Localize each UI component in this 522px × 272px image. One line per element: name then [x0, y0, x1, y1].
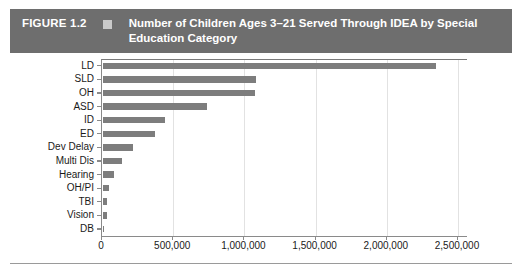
bar-track [101, 127, 512, 141]
category-label-oh: OH [10, 88, 97, 98]
figure-number-label: FIGURE 1.2 [22, 16, 87, 29]
bar-id [103, 117, 165, 124]
bottom-divider [10, 263, 512, 264]
x-axis-line [101, 236, 467, 237]
category-label-ohpi: OH/PI [10, 183, 97, 193]
category-label-id: ID [10, 115, 97, 125]
chart-container: LD SLD OH ASD [10, 56, 512, 256]
category-label-sld: SLD [10, 74, 97, 84]
bar-track [101, 141, 512, 155]
bar-row: OH [10, 86, 512, 100]
bar-ed [103, 131, 155, 138]
bar-tbi [103, 198, 107, 205]
category-label-tbi: TBI [10, 197, 97, 207]
bar-row: SLD [10, 73, 512, 87]
category-label-asd: ASD [10, 102, 97, 112]
bar-row: TBI [10, 195, 512, 209]
bar-ohpi [103, 185, 109, 192]
x-tick-label-2000000: 2,000,000 [364, 240, 409, 251]
square-bullet-icon [103, 20, 112, 29]
bar-rows: LD SLD OH ASD [10, 59, 512, 236]
bar-row: Vision [10, 209, 512, 223]
bar-hearing [103, 171, 114, 178]
bar-track [101, 154, 512, 168]
bar-ld [103, 63, 436, 70]
bar-track [101, 181, 512, 195]
figure-header-bar: FIGURE 1.2 Number of Children Ages 3–21 … [10, 9, 512, 53]
bar-track [101, 59, 512, 73]
bar-row: LD [10, 59, 512, 73]
bar-oh [103, 90, 255, 97]
x-tick-label-1500000: 1,500,000 [292, 240, 337, 251]
bar-track [101, 86, 512, 100]
category-label-vision: Vision [10, 210, 97, 220]
bar-track [101, 209, 512, 223]
category-label-ed: ED [10, 129, 97, 139]
category-label-ld: LD [10, 61, 97, 71]
bar-row: ED [10, 127, 512, 141]
bar-row: OH/PI [10, 181, 512, 195]
x-tick-label-1000000: 1,000,000 [221, 240, 266, 251]
x-tick-label-2500000: 2,500,000 [435, 240, 480, 251]
bar-track [101, 195, 512, 209]
figure-title: Number of Children Ages 3–21 Served Thro… [129, 16, 489, 46]
bar-row: ASD [10, 100, 512, 114]
category-label-multi-dis: Multi Dis [10, 156, 97, 166]
bar-row: DB [10, 222, 512, 236]
bar-track [101, 100, 512, 114]
bar-vision [103, 212, 107, 219]
bar-row: Multi Dis [10, 154, 512, 168]
bar-track [101, 222, 512, 236]
bar-multi-dis [103, 158, 122, 165]
bar-asd [103, 103, 207, 110]
category-label-dev-delay: Dev Delay [10, 142, 97, 152]
x-axis-tick-labels: 0 500,000 1,000,000 1,500,000 2,000,000 … [10, 240, 512, 256]
x-tick-label-500000: 500,000 [154, 240, 190, 251]
bar-row: Dev Delay [10, 141, 512, 155]
bar-track [101, 113, 512, 127]
bar-sld [103, 76, 256, 83]
bar-track [101, 168, 512, 182]
bar-row: ID [10, 113, 512, 127]
category-label-hearing: Hearing [10, 170, 97, 180]
x-tick-label-0: 0 [98, 240, 104, 251]
category-label-db: DB [10, 224, 97, 234]
bar-dev-delay [103, 144, 133, 151]
bar-track [101, 73, 512, 87]
bar-row: Hearing [10, 168, 512, 182]
